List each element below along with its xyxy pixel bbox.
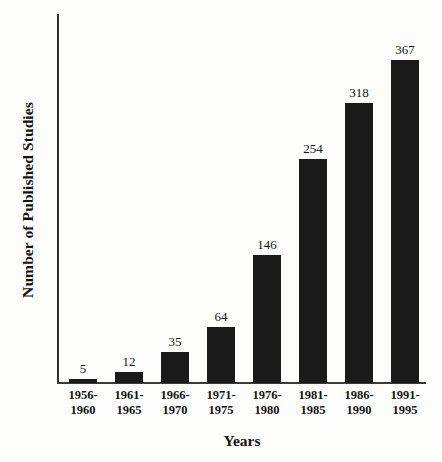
bar-slot: 367 <box>382 14 428 383</box>
x-axis-tick-label-line: 1956- <box>60 388 106 403</box>
bar-chart-figure: Number of Published Studies 512356414625… <box>0 0 442 462</box>
x-axis-tick-label-line: 1990 <box>336 403 382 418</box>
bar-slot: 64 <box>198 14 244 383</box>
x-axis-tick-label: 1961-1965 <box>106 388 152 418</box>
x-axis-tick-label-line: 1966- <box>152 388 198 403</box>
x-axis-title: Years <box>57 432 427 450</box>
x-axis-tick-label: 1986-1990 <box>336 388 382 418</box>
x-axis-tick-labels: 1956-19601961-19651966-19701971-19751976… <box>57 388 427 428</box>
x-axis-tick-label-line: 1991- <box>382 388 428 403</box>
bar-value-label: 12 <box>106 355 152 369</box>
bar <box>391 60 419 383</box>
bars-group: 5123564146254318367 <box>57 14 427 383</box>
x-axis-tick-label-line: 1970 <box>152 403 198 418</box>
x-axis-tick-label-line: 1960 <box>60 403 106 418</box>
bar-slot: 5 <box>60 14 106 383</box>
x-axis-tick-label-line: 1981- <box>290 388 336 403</box>
bar <box>253 255 281 383</box>
x-axis-tick-label-line: 1961- <box>106 388 152 403</box>
y-axis-title-label: Number of Published Studies <box>19 102 37 298</box>
bar-slot: 146 <box>244 14 290 383</box>
y-axis-title: Number of Published Studies <box>0 0 56 400</box>
bar-slot: 35 <box>152 14 198 383</box>
x-axis-tick-label-line: 1985 <box>290 403 336 418</box>
bar-slot: 254 <box>290 14 336 383</box>
bar-slot: 12 <box>106 14 152 383</box>
bar-slot: 318 <box>336 14 382 383</box>
x-axis-tick-label-line: 1980 <box>244 403 290 418</box>
x-axis-tick-label-line: 1995 <box>382 403 428 418</box>
bar <box>161 352 189 383</box>
x-axis-tick-label: 1981-1985 <box>290 388 336 418</box>
bar-value-label: 64 <box>198 310 244 324</box>
bar-value-label: 5 <box>60 362 106 376</box>
x-axis-tick-label-line: 1971- <box>198 388 244 403</box>
bar-value-label: 35 <box>152 335 198 349</box>
x-axis-tick-label-line: 1986- <box>336 388 382 403</box>
x-axis-tick-label-line: 1965 <box>106 403 152 418</box>
plot-area: 5123564146254318367 <box>57 14 427 384</box>
bar <box>69 379 97 383</box>
x-axis-tick-label: 1991-1995 <box>382 388 428 418</box>
bar <box>345 103 373 383</box>
bar <box>299 159 327 383</box>
x-axis-tick-label: 1956-1960 <box>60 388 106 418</box>
x-axis-tick-label: 1966-1970 <box>152 388 198 418</box>
bar <box>115 372 143 383</box>
bar <box>207 327 235 383</box>
bar-value-label: 367 <box>382 43 428 57</box>
bar-value-label: 318 <box>336 86 382 100</box>
bar-value-label: 146 <box>244 238 290 252</box>
bar-value-label: 254 <box>290 142 336 156</box>
x-axis-tick-label: 1976-1980 <box>244 388 290 418</box>
x-axis-tick-label: 1971-1975 <box>198 388 244 418</box>
x-axis-tick-label-line: 1976- <box>244 388 290 403</box>
x-axis-tick-label-line: 1975 <box>198 403 244 418</box>
